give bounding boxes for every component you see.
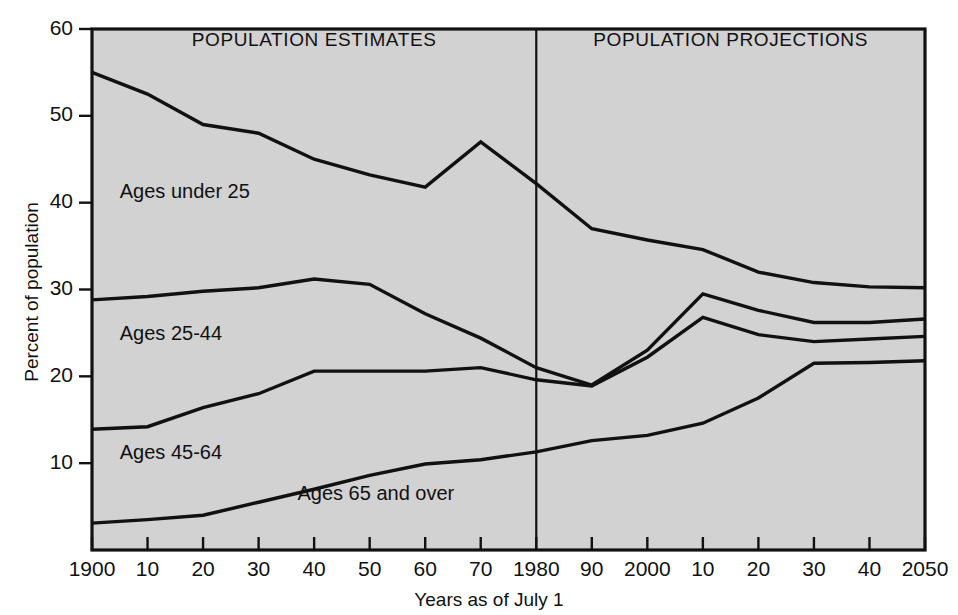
y-tick-label-10: 10 bbox=[50, 450, 73, 473]
chart-figure: 102030405060 190010203040506070198090200… bbox=[0, 0, 958, 615]
x-tick-label-20: 20 bbox=[747, 557, 770, 580]
x-tick-label-60: 60 bbox=[414, 557, 437, 580]
x-tick-label-2050: 2050 bbox=[902, 557, 949, 580]
x-tick-label-1980: 1980 bbox=[513, 557, 560, 580]
y-axis-ticks bbox=[79, 29, 92, 463]
x-tick-label-30: 30 bbox=[247, 557, 270, 580]
x-tick-label-90: 90 bbox=[580, 557, 603, 580]
x-tick-label-50: 50 bbox=[358, 557, 381, 580]
y-axis-title: Percent of population bbox=[21, 202, 42, 382]
series-label-ages-25-44: Ages 25-44 bbox=[120, 322, 222, 344]
population-age-line-chart: 102030405060 190010203040506070198090200… bbox=[0, 0, 958, 615]
panel-title-projections: POPULATION PROJECTIONS bbox=[593, 29, 868, 50]
x-tick-label-20: 20 bbox=[191, 557, 214, 580]
x-axis-tick-labels: 1900102030405060701980902000102030402050 bbox=[69, 557, 949, 580]
y-tick-label-60: 60 bbox=[50, 16, 73, 39]
y-tick-label-20: 20 bbox=[50, 363, 73, 386]
x-tick-label-1900: 1900 bbox=[69, 557, 116, 580]
y-tick-label-30: 30 bbox=[50, 276, 73, 299]
x-tick-label-10: 10 bbox=[136, 557, 159, 580]
series-label-ages-under-25: Ages under 25 bbox=[120, 180, 250, 202]
series-label-ages-65-and-over: Ages 65 and over bbox=[297, 482, 454, 504]
x-tick-label-40: 40 bbox=[858, 557, 881, 580]
x-tick-label-2000: 2000 bbox=[624, 557, 671, 580]
panel-title-estimates: POPULATION ESTIMATES bbox=[192, 29, 437, 50]
x-tick-label-70: 70 bbox=[469, 557, 492, 580]
y-tick-label-40: 40 bbox=[50, 189, 73, 212]
x-tick-label-30: 30 bbox=[802, 557, 825, 580]
x-axis-title: Years as of July 1 bbox=[414, 589, 563, 610]
y-tick-label-50: 50 bbox=[50, 102, 73, 125]
x-tick-label-10: 10 bbox=[691, 557, 714, 580]
x-tick-label-40: 40 bbox=[302, 557, 325, 580]
y-axis-tick-labels: 102030405060 bbox=[50, 16, 73, 473]
series-label-ages-45-64: Ages 45-64 bbox=[120, 441, 222, 463]
